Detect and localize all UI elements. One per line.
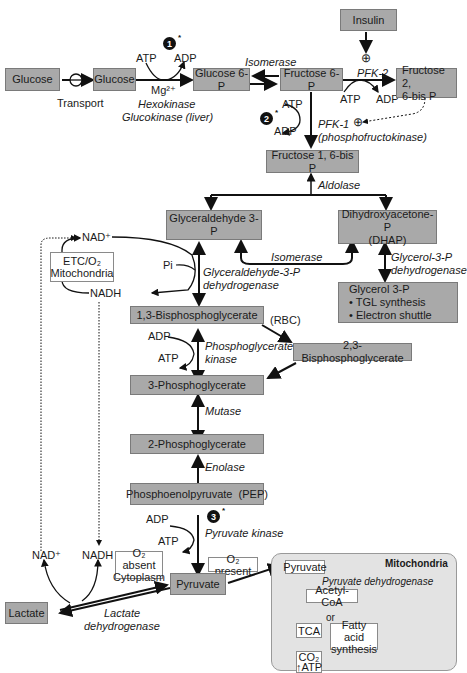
dhap-line1: Dihydroxyacetone-P	[339, 208, 436, 234]
step-2-badge: 2*	[260, 112, 273, 125]
fatty-acid-synthesis-box: Fatty acidsynthesis	[330, 623, 378, 650]
glucose-external-label: Glucose	[12, 73, 52, 86]
o2-present-box: O₂ present	[208, 557, 258, 572]
2-3-bisphosphoglycerate-label: 2,3-Bisphosphoglycerate	[294, 339, 411, 365]
aldolase-label: Aldolase	[318, 179, 360, 192]
lactate-node: Lactate	[5, 602, 48, 624]
1-3-bisphosphoglycerate-label: 1,3-Bisphosphoglycerate	[136, 309, 257, 322]
atp-label-pfk2: ATP	[340, 93, 361, 106]
step-1-asterisk: *	[178, 33, 181, 42]
fructose-2-6-bisp-line1: Fructose 2,	[402, 64, 445, 89]
fructose-1-6-bisp-node: Fructose 1, 6-bis P	[266, 150, 359, 173]
glucose-external-node: Glucose	[5, 68, 60, 91]
glycerol-3p-node: Glycerol 3-P• TGL synthesis• Electron sh…	[338, 282, 458, 323]
enolase-label: Enolase	[205, 461, 245, 474]
fructose-2-6-bisp-text: Fructose 2,6-bis P	[402, 64, 456, 103]
phosphoenolpyruvate-node: Phosphoenolpyruvate (PEP)	[130, 483, 264, 505]
fructose-2-6-bisp-line2: 6-bis P	[402, 90, 436, 102]
glycerol-3p-title: Glycerol 3-P	[349, 283, 410, 296]
glycerol-3p-dh-line2: dehydrogenase	[391, 264, 467, 277]
nad-plus-label-bottom: NAD⁺	[32, 549, 61, 562]
glucose-6p-label: Glucose 6-P	[194, 67, 249, 93]
o2-absent-box: O₂ absentCytoplasm	[115, 551, 163, 579]
adp-label-pk: ADP	[146, 513, 169, 526]
mito-pyruvate-box: Pyruvate	[285, 560, 325, 574]
atp-increase-label: ↑ATP	[296, 662, 322, 672]
pfk1-label: PFK-1	[318, 118, 349, 131]
mutase-label: Mutase	[205, 405, 241, 418]
step-3-number: 3	[211, 512, 216, 522]
glycerol-3p-dh-line1: Glycerol-3-P	[391, 251, 452, 264]
ldh-line1: Lactate	[104, 607, 140, 620]
activation-plus-icon: ⊕	[361, 52, 371, 64]
tca-label: TCA	[298, 625, 320, 637]
3-phosphoglycerate-label: 3-Phosphoglycerate	[148, 379, 246, 392]
3-phosphoglycerate-node: 3-Phosphoglycerate	[130, 375, 264, 395]
phosphoenolpyruvate-label: Phosphoenolpyruvate (PEP)	[126, 488, 268, 501]
acetyl-coa-label: Acetyl-CoA	[307, 584, 357, 608]
insulin-label: Insulin	[353, 14, 385, 27]
co2-atp-box: CO₂↑ATP	[296, 651, 322, 673]
adp-label-1: ADP	[174, 52, 197, 65]
gapdh-line2: dehydrogenase	[203, 279, 279, 292]
lactate-label: Lactate	[8, 607, 44, 620]
ldh-line2: dehydrogenase	[84, 620, 160, 633]
nadh-label-bottom: NADH	[82, 549, 113, 562]
atp-label-pgk: ATP	[158, 352, 179, 365]
step-2-number: 2	[264, 114, 269, 124]
pgk-line1: Phosphoglycerate	[205, 340, 293, 353]
rbc-label: (RBC)	[270, 314, 301, 327]
pfk2-label: PFK-2	[357, 67, 388, 80]
pi-label: Pi	[163, 259, 173, 272]
etc-line2: Mitochondria	[51, 267, 114, 279]
1-3-bisphosphoglycerate-node: 1,3-Bisphosphoglycerate	[130, 306, 264, 324]
adp-label-2: ADP	[274, 125, 297, 138]
hexokinase-label: Hexokinase	[138, 98, 195, 111]
atp-label-2: ATP	[282, 98, 303, 111]
tca-box: TCA	[296, 623, 322, 638]
fructose-1-6-bisp-label: Fructose 1, 6-bis P	[267, 149, 358, 175]
glyceraldehyde-3p-label: Glyceraldehyde 3-P	[167, 212, 261, 238]
nadh-label-top: NADH	[90, 287, 121, 300]
adp-label-pgk: ADP	[148, 330, 171, 343]
step-1-badge: 1*	[163, 37, 176, 50]
activation-plus-icon-2: ⊕	[353, 116, 363, 128]
mitochondria-title: Mitochondria	[385, 557, 448, 570]
fatty-acid-line1: Fatty acid	[331, 619, 377, 643]
glucokinase-label: Glucokinase (liver)	[122, 111, 213, 124]
step-1-number: 1	[167, 39, 172, 49]
step-2-asterisk: *	[275, 108, 278, 117]
gapdh-line1: Glyceraldehyde-3-P	[203, 266, 300, 279]
fructose-6p-node: Fructose 6-P	[280, 68, 343, 91]
2-phosphoglycerate-label: 2-Phosphoglycerate	[148, 438, 246, 451]
2-phosphoglycerate-node: 2-Phosphoglycerate	[130, 434, 264, 454]
dhap-line2: (DHAP)	[369, 234, 407, 247]
triose-isomerase-label: Isomerase	[271, 251, 322, 264]
pyruvate-kinase-label: Pyruvate kinase	[205, 527, 283, 540]
o2-absent-line1: O₂ absent	[116, 547, 162, 571]
insulin-node: Insulin	[340, 9, 397, 31]
glycerol-3p-bullet-1: • TGL synthesis	[349, 296, 426, 309]
fructose-2-6-bisp-node: Fructose 2,6-bis P	[396, 68, 457, 98]
glyceraldehyde-3p-node: Glyceraldehyde 3-P	[166, 210, 262, 240]
nad-plus-label-top: NAD⁺	[82, 231, 111, 244]
transport-label: Transport	[57, 97, 104, 110]
step-3-badge: 3*	[207, 510, 220, 523]
o2-absent-line2: Cytoplasm	[113, 571, 165, 583]
fructose-6p-label: Fructose 6-P	[281, 67, 342, 93]
acetyl-coa-box: Acetyl-CoA	[306, 589, 358, 603]
atp-label-1: ATP	[136, 52, 157, 65]
phosphofructokinase-label: (phosphofructokinase)	[318, 131, 427, 144]
pyruvate-label: Pyruvate	[176, 578, 219, 591]
mito-pyruvate-label: Pyruvate	[283, 561, 326, 573]
glucose-internal-node: Glucose	[93, 68, 136, 91]
magnesium-label: Mg²⁺	[151, 84, 176, 97]
glycerol-3p-bullet-2: • Electron shuttle	[349, 309, 432, 322]
fatty-acid-line2: synthesis	[331, 643, 377, 655]
glucose-internal-label: Glucose	[94, 73, 134, 86]
2-3-bisphosphoglycerate-node: 2,3-Bisphosphoglycerate	[293, 343, 412, 361]
step-3-asterisk: *	[222, 506, 225, 515]
etc-line1: ETC/O₂	[63, 255, 101, 267]
dhap-node: Dihydroxyacetone-P(DHAP)	[338, 210, 437, 244]
etc-mitochondria-box: ETC/O₂Mitochondria	[50, 252, 114, 282]
